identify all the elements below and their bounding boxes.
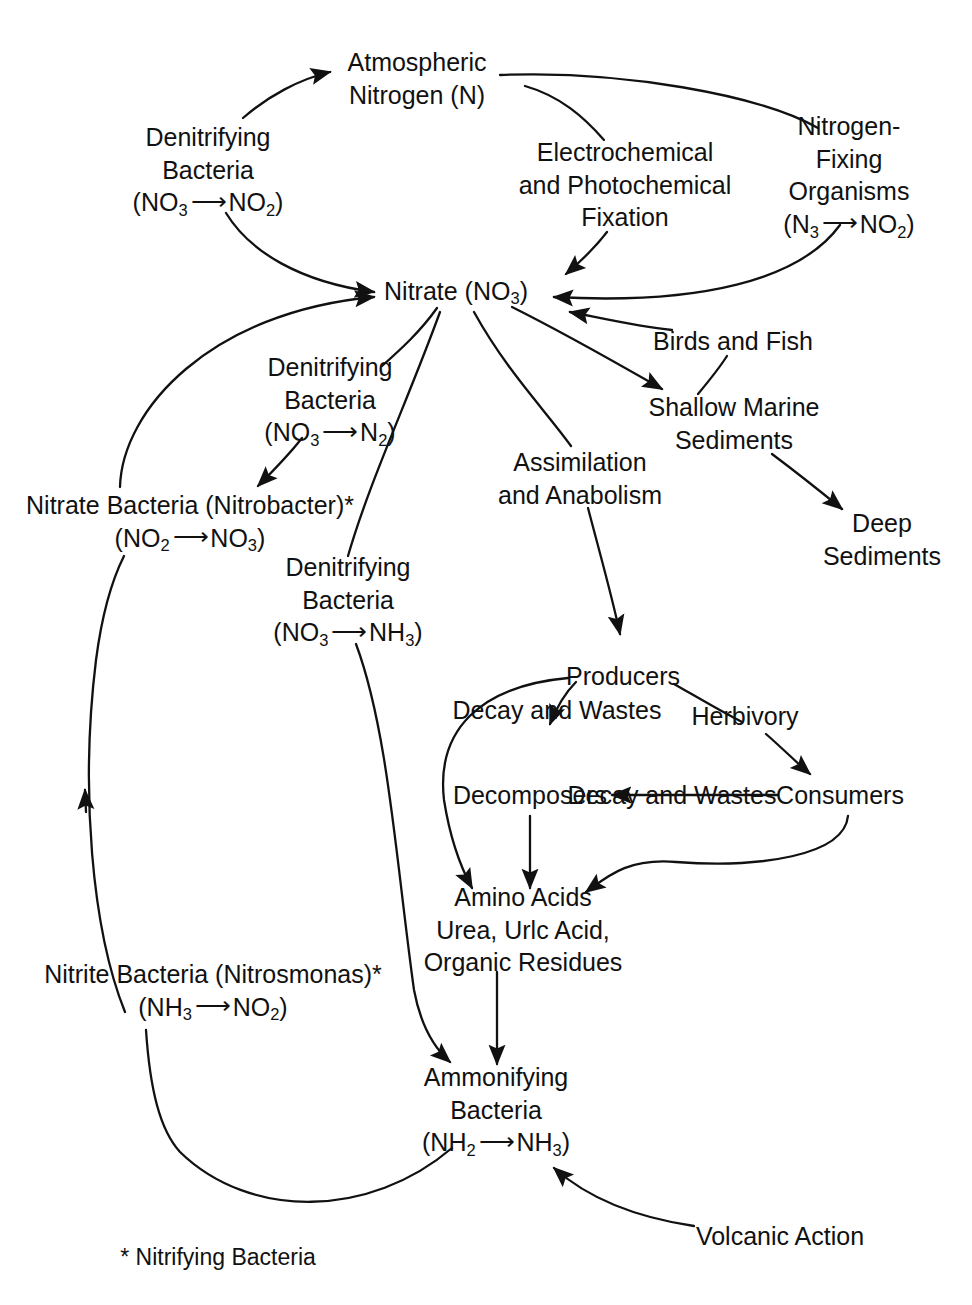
edge-assimilation-to-producers — [588, 508, 620, 634]
node-atmospheric-nitrogen: Atmospheric Nitrogen (N) — [348, 46, 487, 111]
node-line: and Anabolism — [498, 478, 662, 511]
edge-volcanic-to-ammonifying — [554, 1168, 694, 1226]
node-electrochemical-photochemical-fixation: Electrochemical and Photochemical Fixati… — [519, 136, 732, 234]
node-birds-and-fish: Birds and Fish — [653, 325, 813, 358]
edge-label-line: Decay and — [453, 696, 573, 724]
node-nitrite-bacteria-nitrosmonas: Nitrite Bacteria (Nitrosmonas)* (NH3⟶NO2… — [44, 958, 382, 1023]
nitrifying-bacteria-footnote: * Nitrifying Bacteria — [120, 1244, 316, 1271]
node-line: Denitrifying — [264, 351, 395, 384]
node-line: Denitrifying — [133, 121, 284, 154]
edge-nitrate-to-assimilation — [474, 312, 571, 446]
node-line: Nitrate Bacteria (Nitrobacter)* — [26, 489, 354, 522]
node-formula: (NO3⟶NH3) — [273, 616, 422, 649]
edge-label-herbivory: Herbivory — [692, 700, 799, 733]
node-line: Electrochemical — [519, 136, 732, 169]
node-line: Ammonifying — [422, 1061, 570, 1094]
node-line: Producers — [566, 660, 680, 693]
node-line: Birds and Fish — [653, 325, 813, 358]
node-line: Bacteria — [264, 384, 395, 417]
edge-label-decay-and-wastes-consumers: Decay and Wastes — [568, 779, 777, 812]
node-denitrifying-bacteria-no3-no2: Denitrifying Bacteria (NO3⟶NO2) — [133, 121, 284, 219]
node-formula: (NO2⟶NO3) — [26, 521, 354, 554]
node-denitrifying-bacteria-no3-nh3: Denitrifying Bacteria (NO3⟶NH3) — [273, 551, 422, 649]
node-line: Sediments — [649, 423, 820, 456]
node-line: Consumers — [776, 779, 904, 812]
node-shallow-marine-sediments: Shallow Marine Sediments — [649, 391, 820, 456]
node-line: Fixing — [783, 143, 914, 176]
node-nitrate: Nitrate (NO3) — [384, 275, 528, 308]
node-line: Atmospheric — [348, 46, 487, 79]
edge-nitrite-to-nitratebact — [89, 556, 125, 1012]
node-amino-acids: Amino Acids Urea, Urlc Acid, Organic Res… — [424, 881, 623, 979]
node-line: Nitrite Bacteria (Nitrosmonas)* — [44, 958, 382, 991]
node-line: Deep — [823, 507, 941, 540]
edge-label-decay-and-wastes-producers: Decay and Wastes — [453, 694, 662, 727]
node-formula: (NH2⟶NH3) — [422, 1126, 570, 1159]
node-ammonifying-bacteria: Ammonifying Bacteria (NH2⟶NH3) — [422, 1061, 570, 1159]
node-nitrate-bacteria-nitrobacter: Nitrate Bacteria (Nitrobacter)* (NO2⟶NO3… — [26, 489, 354, 554]
node-line: Organisms — [783, 175, 914, 208]
node-denitrifying-bacteria-no3-n2: Denitrifying Bacteria (NO3⟶N2) — [264, 351, 395, 449]
edge-atmospheric-to-nfix — [500, 74, 818, 128]
edge-denitrifying-to-atmospheric — [243, 72, 330, 118]
node-line: Denitrifying — [273, 551, 422, 584]
node-line: and Photochemical — [519, 169, 732, 202]
node-line: Nitrogen (N) — [348, 78, 487, 111]
node-formula: (NO3⟶N2) — [264, 416, 395, 449]
edge-nitrite-to-nitratebact-arrowhead — [85, 790, 86, 812]
edge-denitrifying-to-nitrate — [226, 213, 374, 292]
edge-ammonifying-to-nitrite — [146, 1030, 452, 1202]
node-assimilation-and-anabolism: Assimilation and Anabolism — [498, 446, 662, 511]
node-consumers: Consumers — [776, 779, 904, 812]
node-producers: Producers — [566, 660, 680, 693]
node-deep-sediments: Deep Sediments — [823, 507, 941, 572]
node-formula: (N3⟶NO2) — [783, 208, 914, 241]
node-line: Sediments — [823, 539, 941, 572]
edge-shallow-to-deep — [772, 454, 842, 509]
edge-label-line: Decay and — [568, 781, 688, 809]
node-line: Amino Acids — [424, 881, 623, 914]
node-volcanic-action: Volcanic Action — [696, 1220, 864, 1253]
node-line: Shallow Marine — [649, 391, 820, 424]
node-line: Bacteria — [422, 1094, 570, 1127]
edge-consumers-to-amino — [586, 816, 848, 892]
nitrogen-cycle-diagram: Atmospheric Nitrogen (N) Denitrifying Ba… — [0, 0, 972, 1305]
node-line: Organic Residues — [424, 946, 623, 979]
edge-atmospheric-to-electrochemical — [525, 86, 604, 140]
node-line: Bacteria — [273, 584, 422, 617]
node-line: Nitrate (NO3) — [384, 275, 528, 308]
edge-herbivory-to-consumers — [766, 734, 810, 774]
node-line: Urea, Urlc Acid, — [424, 914, 623, 947]
edge-label-line: Wastes — [694, 781, 776, 809]
node-line: Bacteria — [133, 154, 284, 187]
node-nitrogen-fixing-organisms: Nitrogen- Fixing Organisms (N3⟶NO2) — [783, 110, 914, 240]
node-line: Volcanic Action — [696, 1220, 864, 1253]
node-line: Nitrogen- — [783, 110, 914, 143]
node-line: Fixation — [519, 201, 732, 234]
edge-label-line: Herbivory — [692, 702, 799, 730]
edge-birds-to-shallow — [698, 356, 727, 394]
edge-label-line: Wastes — [579, 696, 661, 724]
node-line: Assimilation — [498, 446, 662, 479]
node-formula: (NO3⟶NO2) — [133, 186, 284, 219]
edge-electrochemical-to-nitrate — [566, 232, 607, 274]
edge-nitrate-to-shallow — [512, 307, 662, 389]
node-formula: (NH3⟶NO2) — [44, 990, 382, 1023]
